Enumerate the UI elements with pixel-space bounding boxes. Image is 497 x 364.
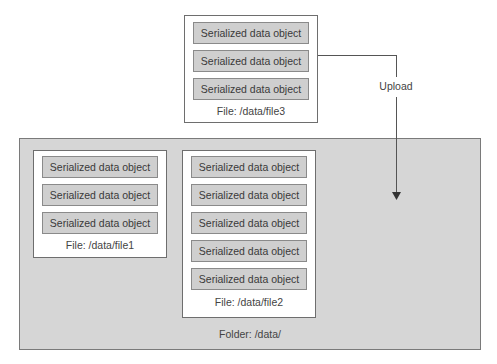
file3-label: File: /data/file3 <box>184 105 318 117</box>
file2-object-4: Serialized data object <box>191 240 307 262</box>
arrow-down-icon <box>392 192 401 200</box>
upload-connector-vertical-top <box>396 55 397 77</box>
file3-object-2: Serialized data object <box>193 50 309 72</box>
file2-label: File: /data/file2 <box>182 296 316 308</box>
file1-label: File: /data/file1 <box>33 239 167 251</box>
file3-object-1: Serialized data object <box>193 22 309 44</box>
file2-object-3: Serialized data object <box>191 212 307 234</box>
file1-object-2: Serialized data object <box>42 184 158 206</box>
file2-object-2: Serialized data object <box>191 184 307 206</box>
file1-object-1: Serialized data object <box>42 156 158 178</box>
upload-label: Upload <box>366 80 426 92</box>
upload-connector-horizontal <box>318 55 397 56</box>
file3-object-3: Serialized data object <box>193 78 309 100</box>
upload-connector-vertical-bottom <box>396 97 397 193</box>
file2-object-1: Serialized data object <box>191 156 307 178</box>
file1-object-3: Serialized data object <box>42 212 158 234</box>
file2-object-5: Serialized data object <box>191 268 307 290</box>
folder-label: Folder: /data/ <box>19 328 481 340</box>
